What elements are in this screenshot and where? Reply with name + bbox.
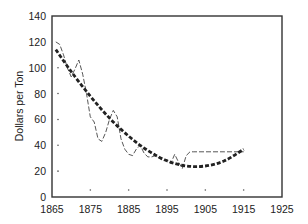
y-tick-label: 60 xyxy=(34,113,46,125)
fitted-trend-line xyxy=(56,50,244,167)
x-axis-ticks: 1865187518851895190519151925 xyxy=(40,203,294,215)
chart: 020406080100120140 186518751885189519051… xyxy=(0,0,308,224)
plot-frame xyxy=(52,16,282,197)
x-tick-label: 1885 xyxy=(117,203,141,215)
x-tick-label: 1865 xyxy=(40,203,64,215)
observed-price-line xyxy=(56,42,244,169)
y-axis-ticks: 020406080100120140 xyxy=(28,10,46,203)
y-tick-label: 100 xyxy=(28,62,46,74)
y-tick-label: 20 xyxy=(34,165,46,177)
x-tick-label: 1915 xyxy=(232,203,256,215)
x-tick-label: 1905 xyxy=(194,203,218,215)
y-axis-label: Dollars per Ton xyxy=(13,71,25,142)
dot-marks xyxy=(57,67,244,191)
y-tick-label: 140 xyxy=(28,10,46,22)
y-tick-label: 120 xyxy=(28,36,46,48)
x-tick-label: 1875 xyxy=(79,203,103,215)
y-tick-label: 0 xyxy=(40,191,46,203)
x-tick-label: 1895 xyxy=(155,203,179,215)
y-tick-label: 40 xyxy=(34,139,46,151)
x-tick-label: 1925 xyxy=(270,203,294,215)
y-tick-label: 80 xyxy=(34,88,46,100)
